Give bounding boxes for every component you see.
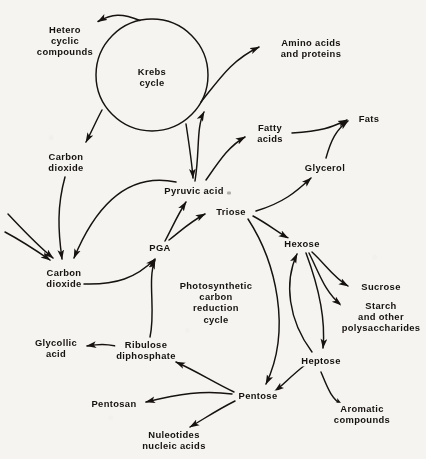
edge-heptose-to-aromatic: [321, 372, 343, 406]
label-photosynthetic-carbon-reduction-cycle: Photosynthetic carbon reduction cycle: [179, 280, 254, 325]
node-ribulose-diphosphate: Ribulose diphosphate: [115, 339, 177, 361]
edge-pga-to-triose: [169, 214, 205, 240]
edge-co2-upper-to-co2-lower: [59, 177, 65, 259]
edge-triose-to-glycerol: [256, 178, 311, 211]
node-carbon-dioxide-upper: Carbon dioxide: [47, 151, 84, 173]
edge-krebs-to-hetero: [98, 15, 140, 21]
scan-speck-artifact: [227, 192, 231, 195]
node-pyruvic-acid: Pyruvic acid: [163, 185, 224, 196]
node-hexose: Hexose: [283, 238, 320, 249]
edge-krebs-to-amino: [201, 47, 259, 102]
edge-external-to-co2-lower: [8, 214, 53, 258]
node-fatty-acids: Fatty acids: [256, 122, 284, 144]
label-krebs-cycle: Krebs cycle: [137, 66, 167, 88]
edge-hexose-to-heptose: [306, 253, 324, 348]
node-pentosan: Pentosan: [91, 398, 138, 409]
node-nucleotides-nucleic-acids: Nuleotides nucleic acids: [141, 429, 206, 451]
edge-krebs-to-pyruvic: [186, 124, 193, 178]
edge-co2-lower-to-pga: [84, 259, 155, 284]
edge-external2-to-co2-lower: [5, 232, 50, 260]
edge-ribulose-to-glycollic: [87, 345, 116, 347]
edge-triose-to-hexose: [253, 216, 288, 238]
node-hetero-cyclic-compounds: Hetero cyclic compounds: [36, 24, 94, 58]
node-pentose: Pentose: [238, 390, 279, 401]
node-amino-acids-and-proteins: Amino acids and proteins: [280, 37, 342, 59]
edge-heptose-to-hexose: [290, 254, 312, 352]
edge-hexose-to-starch: [309, 253, 341, 305]
diagram-canvas: .w{fill:none;stroke:#15120f;stroke-width…: [0, 0, 426, 459]
edge-pentose-to-pentosan: [146, 392, 232, 402]
node-starch-polysaccharides: Starch and other polysaccharides: [341, 300, 422, 334]
edge-pentose-to-nucleotides: [190, 401, 235, 427]
pathway-arrows-layer: .w{fill:none;stroke:#15120f;stroke-width…: [0, 0, 426, 459]
edge-pentose-to-ribulose: [176, 362, 234, 392]
edge-hexose-to-sucrose: [312, 252, 348, 286]
node-glycerol: Glycerol: [304, 162, 346, 173]
node-sucrose: Sucrose: [360, 281, 401, 292]
edge-krebs-to-co2-upper: [86, 110, 102, 142]
node-pga: PGA: [148, 242, 171, 253]
edge-fatty-to-fats: [292, 120, 347, 133]
edge-heptose-to-pentose: [275, 365, 305, 391]
node-triose: Triose: [215, 206, 247, 217]
node-glycollic-acid: Glycollic acid: [34, 337, 78, 359]
edge-pyruvic-to-fatty: [206, 137, 245, 180]
node-carbon-dioxide-lower: Carbon dioxide: [45, 267, 82, 289]
node-aromatic-compounds: Aromatic compounds: [333, 403, 391, 425]
node-heptose: Heptose: [300, 355, 341, 366]
edge-ribulose-to-pga: [150, 260, 155, 337]
edge-pyruvic-to-krebs: [195, 112, 204, 181]
node-fats: Fats: [358, 113, 381, 124]
